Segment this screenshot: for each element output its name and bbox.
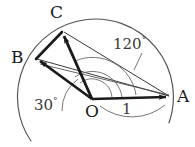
length-brace-1: [100, 105, 165, 117]
length-label-1: 1: [122, 102, 132, 117]
figure-canvas: [0, 0, 195, 147]
chord-AB-secondary: [40, 64, 169, 95]
point-label-O: O: [85, 103, 99, 120]
vector-OA: [92, 97, 166, 99]
point-label-B: B: [11, 49, 24, 66]
point-label-C: C: [50, 4, 63, 21]
angle-30-value: 30: [34, 96, 53, 114]
segment-BC: [36, 32, 62, 59]
degree-symbol-30: °: [53, 96, 58, 106]
unit-circle-arc: [17, 19, 173, 141]
geometry-figure: C B A O 120° 30° 1: [0, 0, 195, 147]
degree-symbol-120: °: [142, 35, 147, 45]
angle-label-120: 120°: [113, 36, 146, 52]
angle-label-30: 30°: [34, 97, 58, 113]
angle-120-value: 120: [113, 35, 142, 53]
point-label-A: A: [177, 88, 189, 105]
